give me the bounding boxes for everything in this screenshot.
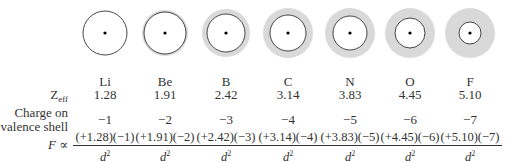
nucleus-dot	[163, 31, 166, 34]
force-label: F ∝	[48, 138, 68, 152]
zeff-symbol: Z	[50, 87, 58, 102]
fraction-denominator: d2	[438, 146, 502, 162]
charge-value: −7	[440, 113, 500, 127]
fraction-numerator: (+1.91)(−2)	[133, 130, 197, 146]
force-fraction: (+3.14)(−4)d2	[256, 130, 320, 162]
fraction-denominator: d2	[133, 146, 197, 162]
fraction-numerator: (+3.83)(−5)	[318, 130, 382, 146]
atom-diagram	[139, 7, 191, 59]
fraction-denominator: d2	[318, 146, 382, 162]
charge-label: Charge on valence shell	[1, 106, 69, 134]
force-symbol: F	[48, 137, 56, 152]
nucleus-dot	[408, 31, 411, 34]
force-fraction: (+1.28)(−1)d2	[73, 130, 137, 162]
zeff-value: 4.45	[380, 88, 440, 102]
zeff-subscript: eff	[58, 94, 68, 104]
charge-label-line1: Charge on	[1, 106, 69, 120]
fraction-denominator: d2	[73, 146, 137, 162]
distance-exponent: 2	[411, 149, 415, 158]
charge-value: −4	[258, 113, 318, 127]
atom-diagram	[384, 7, 436, 59]
proportional-symbol: ∝	[59, 137, 68, 152]
atom-diagram	[200, 7, 252, 59]
nucleus-dot	[286, 31, 289, 34]
charge-value: −3	[196, 113, 256, 127]
atom-diagram	[324, 7, 376, 59]
force-fraction: (+5.10)(−7)d2	[438, 130, 502, 162]
zeff-value: 3.83	[320, 88, 380, 102]
atom-diagram	[444, 7, 496, 59]
zeff-value: 3.14	[258, 88, 318, 102]
nucleus-dot	[468, 31, 471, 34]
force-fraction: (+2.42)(−3)d2	[194, 130, 258, 162]
nucleus-dot	[224, 31, 227, 34]
charge-value: −6	[380, 113, 440, 127]
atom-diagram	[262, 7, 314, 59]
force-fraction: (+3.83)(−5)d2	[318, 130, 382, 162]
zeff-value: 1.91	[135, 88, 195, 102]
charge-value: −1	[75, 113, 135, 127]
distance-exponent: 2	[166, 149, 170, 158]
distance-exponent: 2	[106, 149, 110, 158]
fraction-numerator: (+5.10)(−7)	[438, 130, 502, 146]
zeff-value: 2.42	[196, 88, 256, 102]
fraction-numerator: (+3.14)(−4)	[256, 130, 320, 146]
atom-diagram	[79, 7, 131, 59]
fraction-denominator: d2	[378, 146, 442, 162]
charge-value: −2	[135, 113, 195, 127]
nucleus-dot	[103, 31, 106, 34]
distance-exponent: 2	[351, 149, 355, 158]
zeff-value: 5.10	[440, 88, 500, 102]
fraction-numerator: (+4.45)(−6)	[378, 130, 442, 146]
distance-exponent: 2	[227, 149, 231, 158]
force-fraction: (+1.91)(−2)d2	[133, 130, 197, 162]
fraction-numerator: (+2.42)(−3)	[194, 130, 258, 146]
distance-exponent: 2	[289, 149, 293, 158]
distance-exponent: 2	[471, 149, 475, 158]
fraction-denominator: d2	[194, 146, 258, 162]
zeff-label: Zeff	[50, 88, 68, 106]
zeff-value: 1.28	[75, 88, 135, 102]
nucleus-dot	[348, 31, 351, 34]
charge-value: −5	[320, 113, 380, 127]
fraction-denominator: d2	[256, 146, 320, 162]
force-fraction: (+4.45)(−6)d2	[378, 130, 442, 162]
fraction-numerator: (+1.28)(−1)	[73, 130, 137, 146]
charge-label-line2: valence shell	[1, 120, 69, 134]
